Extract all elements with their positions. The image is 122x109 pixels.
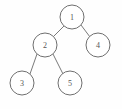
- tree-node-4[interactable]: 4: [86, 33, 110, 57]
- node-label-5: 5: [68, 79, 72, 88]
- node-label-1: 1: [70, 13, 74, 22]
- tree-node-3[interactable]: 3: [10, 71, 34, 95]
- edge-1-to-4: [81, 25, 90, 37]
- node-label-4: 4: [96, 41, 100, 50]
- node-label-2: 2: [43, 41, 47, 50]
- edge-2-to-3: [30, 54, 37, 74]
- node-group: 1 2 4 3 5: [10, 5, 110, 95]
- node-label-3: 3: [20, 79, 24, 88]
- tree-node-1[interactable]: 1: [60, 5, 84, 29]
- tree-node-5[interactable]: 5: [58, 71, 82, 95]
- edge-2-to-5: [53, 54, 63, 74]
- edge-1-to-2: [53, 26, 64, 37]
- binary-tree-diagram: 1 2 4 3 5: [0, 0, 122, 109]
- tree-canvas: 1 2 4 3 5: [0, 0, 122, 109]
- tree-node-2[interactable]: 2: [33, 33, 57, 57]
